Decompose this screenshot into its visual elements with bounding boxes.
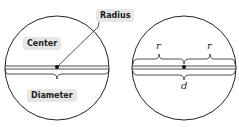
diameter-brace-right [133,71,235,80]
radius-brace-left [133,54,184,64]
center-label: Center [23,37,61,50]
radius-brace-right [184,54,235,64]
diameter-brace [5,70,109,79]
diameter-label: Diameter [27,89,77,102]
d-label: d [181,80,187,91]
radius-line [57,27,98,67]
center-dot [55,65,59,69]
r-label-right: r [207,40,212,51]
r-label-left: r [156,40,161,51]
center-dot-right [182,65,186,69]
radius-label: Radius [96,9,134,22]
